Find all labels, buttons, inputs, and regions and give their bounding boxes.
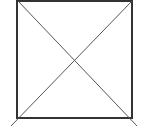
diagram-canvas [0, 0, 144, 129]
diagonal-line-1 [18, 1, 137, 126]
diagonal-line-2 [11, 1, 132, 126]
square-diagonals-figure [0, 0, 144, 129]
